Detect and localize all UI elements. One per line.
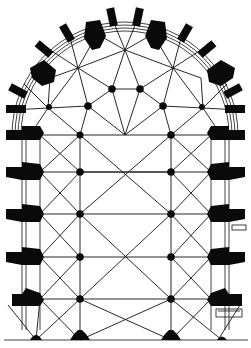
nave-ribs [8, 135, 240, 340]
columns [46, 85, 205, 303]
apse-buttresses [6, 7, 245, 113]
floor-plan [0, 0, 251, 348]
bottom-piers [30, 330, 227, 340]
floor-plan-drawing [0, 0, 251, 348]
side-piers [6, 126, 245, 306]
